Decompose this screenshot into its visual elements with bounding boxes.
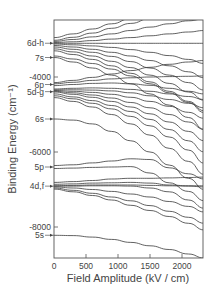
x-tick-label: 0 xyxy=(52,261,57,271)
curve-6d-h-i xyxy=(54,6,204,41)
energy-level-chart: 0500100015002000 -4000-6000-8000 6d-h7s6… xyxy=(0,0,214,294)
level-label: 5p xyxy=(35,162,45,172)
curve-6p-c xyxy=(54,61,204,83)
curve-6d-h-h xyxy=(54,19,204,42)
level-label: 4d,f xyxy=(30,181,45,191)
x-tick-label: 1000 xyxy=(109,261,128,271)
y-axis-title: Binding Energy (cm⁻¹) xyxy=(6,84,18,193)
curve-4d-f-a xyxy=(54,189,204,230)
x-tick-label: 2000 xyxy=(173,261,192,271)
x-axis-ticks: 0500100015002000 xyxy=(52,254,192,271)
y-tick-label: -6000 xyxy=(29,147,51,157)
level-label: 6d-h xyxy=(27,38,44,48)
x-axis-title: Field Amplitude (kV / cm) xyxy=(67,272,189,284)
curve-6d-h-g xyxy=(54,31,204,43)
level-label: 5s xyxy=(35,230,44,240)
x-tick-label: 1500 xyxy=(141,261,160,271)
level-label: 5d-g xyxy=(27,87,44,97)
curve-5p-b xyxy=(54,159,204,179)
curve-5d-g-a xyxy=(54,98,204,175)
curve-7s-a xyxy=(54,58,204,130)
curve-upper-a xyxy=(54,0,204,38)
level-label: 6s xyxy=(35,114,44,124)
level-label: 7s xyxy=(35,53,44,63)
energy-curves xyxy=(54,0,204,258)
curve-4d-f-g xyxy=(54,177,204,182)
level-labels: 6d-h7s6p5d-g6s5p4d,f5s xyxy=(27,38,54,240)
x-tick-label: 500 xyxy=(79,261,93,271)
